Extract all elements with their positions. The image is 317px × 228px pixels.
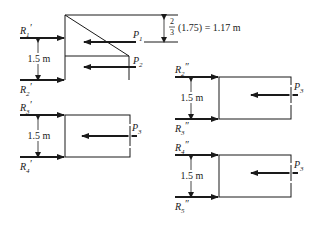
- label-p3: P3: [131, 122, 142, 136]
- label-r1p: R1′: [19, 22, 33, 39]
- panel-bottom-right: 1.5 m R4″ R5″ P3: [174, 139, 304, 215]
- svg-text:3: 3: [170, 28, 174, 37]
- label-r2pp: R2″: [174, 61, 190, 78]
- height-annotation: (1.75) = 1.17 m: [178, 22, 241, 34]
- svg-text:1.5 m: 1.5 m: [181, 92, 204, 103]
- label-r4pp: R4″: [174, 139, 190, 156]
- label-r2p: R2′: [19, 81, 33, 98]
- panel-mid-left: 1.5 m R3′ R4′ P3: [19, 99, 142, 175]
- label-r5pp: R5″: [174, 198, 190, 215]
- panel-mid-right: 1.5 m R2″ R3″ P3: [174, 61, 304, 137]
- label-r4p: R4′: [19, 158, 33, 175]
- svg-text:2: 2: [170, 17, 174, 26]
- force-diagram: 1.5 m R1′ R2′ P1 P2 2 3 (1.75) = 1.17 m …: [0, 0, 317, 228]
- label-r3p: R3′: [19, 99, 33, 116]
- panel-top-left: 1.5 m R1′ R2′ P1 P2 2 3 (1.75) = 1.17 m: [19, 15, 241, 98]
- label-p3: P3: [293, 81, 304, 95]
- label-p1: P1: [132, 29, 143, 43]
- label-p3: P3: [293, 159, 304, 173]
- label-r3pp: R3″: [174, 120, 190, 137]
- svg-text:1.5 m: 1.5 m: [28, 130, 51, 141]
- spacing-label: 1.5 m: [28, 53, 51, 64]
- svg-text:1.5 m: 1.5 m: [181, 170, 204, 181]
